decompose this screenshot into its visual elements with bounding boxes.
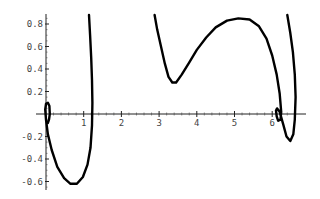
x-tick-label: 4: [194, 118, 199, 128]
y-tick-label: 0.4: [27, 64, 43, 74]
y-tick-label: 0.6: [27, 42, 43, 52]
y-tick-label: 0.8: [27, 19, 43, 29]
x-tick-label: 5: [232, 118, 237, 128]
series-curve-left: [45, 15, 92, 184]
y-tick-label: -0.2: [21, 132, 43, 142]
x-tick-label: 1: [81, 118, 86, 128]
y-tick-label: -0.6: [21, 177, 43, 187]
x-tick-label: 2: [119, 118, 124, 128]
curves: [45, 15, 295, 184]
x-tick-label: 3: [156, 118, 161, 128]
ticks: 123456-0.6-0.4-0.20.20.40.60.8: [21, 18, 287, 187]
axes: [36, 14, 306, 190]
y-tick-label: -0.4: [21, 154, 43, 164]
y-tick-label: 0.2: [27, 87, 43, 97]
chart-plot: 123456-0.6-0.4-0.20.20.40.60.8: [0, 0, 320, 199]
x-tick-label: 6: [269, 118, 274, 128]
